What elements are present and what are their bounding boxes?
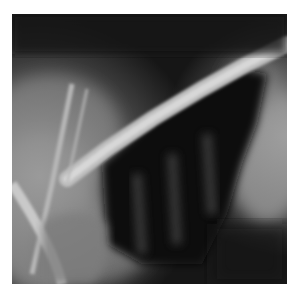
radiograph-graphic [12, 14, 287, 284]
radiograph-image [12, 14, 287, 284]
